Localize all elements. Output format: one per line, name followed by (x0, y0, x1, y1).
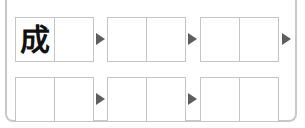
word-box-r2-1 (15, 77, 94, 122)
word-box-r2-2 (107, 77, 186, 122)
char-cell[interactable] (108, 78, 146, 121)
word-box-r1-2 (107, 17, 186, 62)
arrow-right-icon (96, 93, 105, 105)
char-cell[interactable] (16, 78, 54, 121)
arrow-right-icon (96, 33, 105, 45)
char-cell[interactable]: 成 (16, 18, 54, 61)
word-box-r1-3 (200, 17, 279, 62)
word-box-r1-1: 成 (15, 17, 94, 62)
char-cell[interactable] (239, 78, 278, 121)
char-cell[interactable] (146, 18, 185, 61)
char-cell[interactable] (108, 18, 146, 61)
char-cell[interactable] (201, 78, 239, 121)
arrow-right-icon (188, 93, 197, 105)
char-cell[interactable] (54, 18, 93, 61)
arrow-right-icon (188, 33, 197, 45)
word-box-r2-3 (200, 77, 279, 122)
char-cell[interactable] (239, 18, 278, 61)
char-cell[interactable] (201, 18, 239, 61)
char-cell[interactable] (54, 78, 93, 121)
char-cell[interactable] (146, 78, 185, 121)
arrow-right-icon (282, 33, 291, 45)
